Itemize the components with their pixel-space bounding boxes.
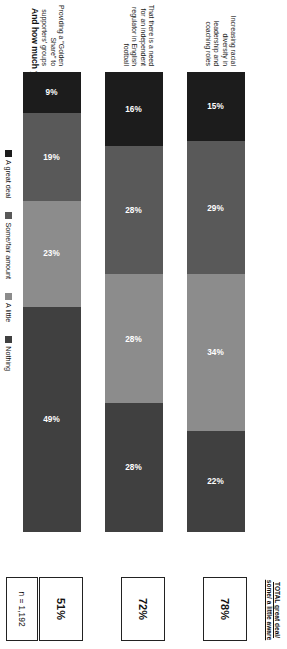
segment-value-label: 15% xyxy=(208,102,224,111)
bar-segment-nothing: 49% xyxy=(23,307,81,532)
bar-segment-some-fair-amount: 28% xyxy=(105,146,163,275)
segment-value-label: 49% xyxy=(44,415,60,424)
stacked-bar-row: 9% 19% 23% 49% xyxy=(23,72,81,532)
total-badge: 78% xyxy=(203,577,247,641)
bar-segment-nothing: 22% xyxy=(187,431,245,532)
bar-segment-a-little: 23% xyxy=(23,201,81,307)
segment-value-label: 16% xyxy=(126,104,142,113)
total-badge: 51% xyxy=(39,577,83,641)
legend-swatch-icon xyxy=(5,212,12,219)
segment-value-label: 28% xyxy=(126,463,142,472)
total-badge: 72% xyxy=(121,577,165,641)
bar-segment-some-fair-amount: 19% xyxy=(23,113,81,200)
plot-area: Increasing racial diversity in leadershi… xyxy=(11,72,251,532)
legend-item-nothing: Nothing xyxy=(4,336,13,371)
legend-swatch-icon xyxy=(5,336,12,343)
chart-canvas: And how much you have seen, heard or rea… xyxy=(0,0,287,649)
segment-value-label: 9% xyxy=(46,88,58,97)
legend-item-a-little: A little xyxy=(4,293,13,322)
segment-value-label: 19% xyxy=(44,153,60,162)
legend-item-some-fair-amount: Some/fair amount xyxy=(4,212,13,279)
legend-item-a-great-deal: A great deal xyxy=(4,150,13,198)
bar-segment-a-little: 34% xyxy=(187,274,245,430)
bar-segment-some-fair-amount: 29% xyxy=(187,141,245,274)
legend: A great deal Some/fair amount A little N… xyxy=(4,150,13,371)
total-column-header: TOTAL great deal/ some/ a little aware xyxy=(265,579,281,641)
category-label: Providing a "Golden Share" to supporters… xyxy=(40,2,65,66)
stacked-bar-row: 15% 29% 34% 22% xyxy=(187,72,245,532)
legend-label: A little xyxy=(4,303,13,322)
legend-label: Some/fair amount xyxy=(4,222,13,279)
bar-segment-nothing: 28% xyxy=(105,403,163,532)
segment-value-label: 28% xyxy=(126,334,142,343)
segment-value-label: 23% xyxy=(44,249,60,258)
segment-value-label: 28% xyxy=(126,205,142,214)
category-label: That there is a need for an independent … xyxy=(121,2,155,66)
slide-stage: And how much you have seen, heard or rea… xyxy=(0,0,287,649)
bar-segment-a-great-deal: 9% xyxy=(23,72,81,113)
legend-swatch-icon xyxy=(5,293,12,300)
category-label: Increasing racial diversity in leadershi… xyxy=(203,2,237,66)
legend-label: Nothing xyxy=(4,346,13,371)
bar-segment-a-great-deal: 16% xyxy=(105,72,163,146)
segment-value-label: 29% xyxy=(208,203,224,212)
segment-value-label: 22% xyxy=(208,477,224,486)
segment-value-label: 34% xyxy=(208,348,224,357)
legend-label: A great deal xyxy=(4,160,13,198)
bar-segment-a-little: 28% xyxy=(105,274,163,403)
sample-size-badge: n = 1,192 xyxy=(6,577,38,641)
stacked-bar-row: 16% 28% 28% 28% xyxy=(105,72,163,532)
bar-segment-a-great-deal: 15% xyxy=(187,72,245,141)
legend-swatch-icon xyxy=(5,150,12,157)
